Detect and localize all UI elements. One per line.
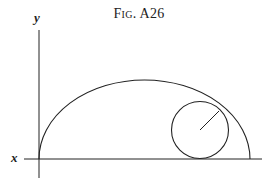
diagram-canvas: [0, 0, 270, 188]
figure-a26: Fig. A26 y x: [0, 0, 270, 188]
large-arc-curve: [39, 80, 250, 159]
circle-radius-line: [200, 111, 219, 130]
